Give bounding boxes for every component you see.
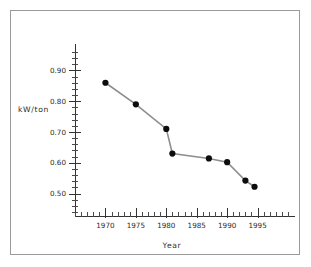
x-axis-title: Year — [162, 241, 182, 250]
y-axis — [69, 44, 81, 216]
chart-figure: 0.500.600.700.800.90 1970197519801985199… — [0, 0, 311, 267]
y-tick-label: 0.60 — [50, 158, 66, 167]
series-polyline — [105, 83, 254, 187]
data-point — [102, 80, 108, 86]
data-point — [169, 150, 175, 156]
x-tick-label: 1975 — [127, 221, 145, 230]
y-tick-label: 0.80 — [50, 97, 66, 106]
x-tick-label: 1990 — [218, 221, 237, 230]
chart-canvas: 0.500.600.700.800.90 1970197519801985199… — [0, 0, 311, 267]
x-axis — [75, 208, 295, 218]
data-point — [251, 184, 257, 190]
y-tick-label: 0.70 — [50, 128, 66, 137]
y-tick-label: 0.90 — [50, 66, 66, 75]
data-point — [163, 126, 169, 132]
data-point — [133, 101, 139, 107]
y-tick-label: 0.50 — [50, 189, 66, 198]
y-axis-tick-labels: 0.500.600.700.800.90 — [50, 66, 66, 198]
y-axis-title: kW/ton — [18, 105, 49, 114]
x-tick-label: 1985 — [188, 221, 206, 230]
x-tick-label: 1980 — [157, 221, 176, 230]
x-axis-tick-labels: 197019751980198519901995 — [96, 221, 266, 230]
data-point — [224, 159, 230, 165]
data-series-line — [105, 83, 254, 187]
x-tick-label: 1970 — [96, 221, 115, 230]
x-tick-label: 1995 — [248, 221, 266, 230]
data-point — [206, 155, 212, 161]
data-point — [242, 178, 248, 184]
